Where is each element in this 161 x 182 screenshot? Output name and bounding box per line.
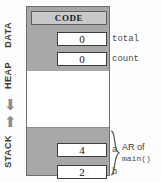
region-label-heap: HEAP (4, 62, 13, 89)
variable-value-a: 4 (57, 143, 107, 157)
region-label-data: DATA (4, 22, 13, 48)
activation-record-function-name: main() (122, 153, 151, 164)
heap-growth-down-arrow-icon: ⬇ (4, 97, 15, 112)
region-label-stack: STACK (4, 135, 13, 168)
variable-value-b: 2 (57, 165, 107, 179)
variable-name-total: total (112, 34, 139, 44)
variable-slot-a: 4 a (57, 143, 117, 157)
stack-growth-up-arrow-icon: ⬆ (4, 114, 15, 129)
variable-value-total: 0 (57, 32, 107, 46)
activation-record-brace-icon (110, 130, 120, 176)
variable-value-count: 0 (57, 52, 107, 66)
variable-slot-count: 0 count (57, 52, 139, 66)
memory-layout-diagram: DATA HEAP ⬇ ⬆ STACK CODE 0 total 0 count… (0, 0, 161, 182)
variable-slot-b: 2 b (57, 165, 117, 179)
variable-slot-total: 0 total (57, 32, 139, 46)
code-segment-header: CODE (31, 11, 107, 25)
memory-column: CODE 0 total 0 count 4 a 2 b (26, 6, 110, 176)
activation-record-label: AR of (122, 142, 151, 153)
variable-name-count: count (112, 54, 139, 64)
activation-record-annotation: AR of main() (122, 142, 151, 164)
